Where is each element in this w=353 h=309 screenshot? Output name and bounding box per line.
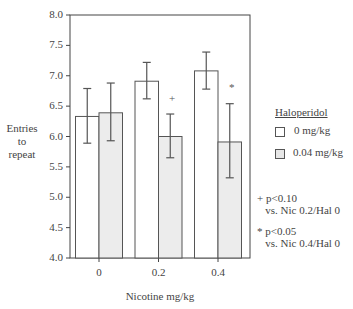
footnote-star: * p<0.05 vs. Nic 0.4/Hal 0 [257,225,340,249]
footnote-plus: + p<0.10 vs. Nic 0.2/Hal 0 [257,192,340,216]
y-tick-label: 7.0 [33,69,63,81]
x-axis-label: Nicotine mg/kg [100,290,220,302]
legend-label-004mg: 0.04 mg/kg [293,146,343,158]
y-tick-label: 4.0 [33,251,63,263]
legend-label-0mg: 0 mg/kg [294,124,330,136]
y-tick-label: 8.0 [33,8,63,20]
significance-marker-plus: + [169,92,175,104]
y-tick-label: 6.5 [33,99,63,111]
x-tick-label: 0 [79,266,119,278]
y-axis-label: Entries to repeat [2,122,42,161]
legend-swatch-004mg [275,149,285,159]
significance-marker-star: * [229,81,235,93]
legend-title: Haloperidol [275,106,328,118]
y-tick-label: 7.5 [33,38,63,50]
bar-hal-0-nic-0.4 [195,71,219,258]
x-tick-label: 0.2 [139,266,179,278]
legend-swatch-0mg [275,127,285,137]
y-tick-label: 4.5 [33,221,63,233]
x-tick-label: 0.4 [198,266,238,278]
bar-hal-0-nic-0.2 [135,81,159,258]
y-tick-label: 5.0 [33,190,63,202]
y-tick-label: 5.5 [33,160,63,172]
